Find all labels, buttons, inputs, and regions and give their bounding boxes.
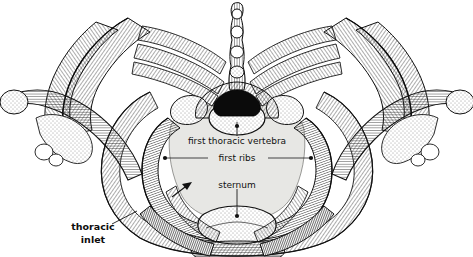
label-first-ribs: first ribs [218, 153, 255, 163]
label-thoracic-inlet-line2: inlet [81, 234, 106, 245]
label-first-thoracic-vertebra: first thoracic vertebra [188, 136, 286, 146]
dot-first-ribs-right [309, 156, 313, 160]
dot-first-thoracic-vertebra [235, 124, 239, 128]
thoracic-inlet-illustration: first thoracic vertebra first ribs stern… [0, 0, 473, 257]
dot-first-ribs-left [163, 156, 167, 160]
label-sternum: sternum [218, 180, 255, 190]
label-thoracic-inlet-line1: thoracic [71, 221, 114, 232]
dot-sternum [235, 214, 239, 218]
